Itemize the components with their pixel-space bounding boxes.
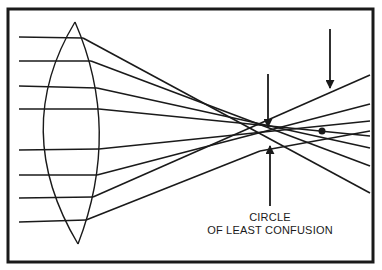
circle-of-least-confusion-label-line1: CIRCLE: [230, 211, 310, 224]
paraxial-focus-dot: [319, 128, 326, 135]
refracted-rays: [83, 38, 370, 220]
circle-of-least-confusion-label-line2: OF LEAST CONFUSION: [200, 224, 340, 237]
biconvex-lens: [43, 22, 99, 244]
incident-rays: [19, 37, 99, 222]
